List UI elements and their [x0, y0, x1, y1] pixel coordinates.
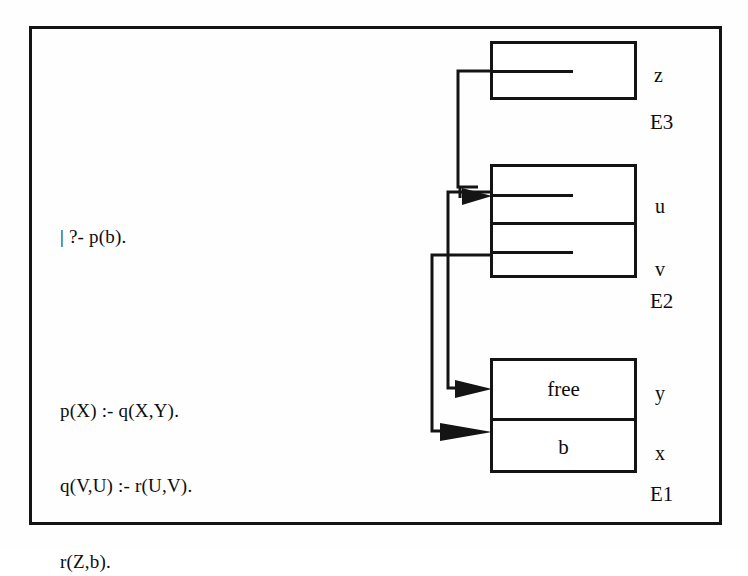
env-cell-value: free	[547, 379, 580, 400]
program-clause-2: q(V,U) :- r(U,V).	[60, 473, 192, 498]
cell-pointer-stub	[491, 70, 573, 73]
program-clause-3: r(Z,b).	[60, 549, 192, 574]
environment-label-e3: E3	[650, 112, 673, 133]
env-cell-e3-z	[493, 44, 634, 97]
env-cell-e2-u	[493, 167, 634, 222]
environment-label-e1: E1	[650, 484, 673, 505]
environment-label-e2: E2	[650, 291, 673, 312]
prolog-query-text: | ?- p(b).	[60, 174, 126, 299]
slot-label-u: u	[655, 196, 665, 216]
program-clause-1: p(X) :- q(X,Y).	[60, 398, 192, 423]
prolog-program-text: p(X) :- q(X,Y). q(V,U) :- r(U,V). r(Z,b)…	[60, 348, 192, 576]
slot-label-v: v	[655, 259, 665, 279]
environment-frame-e1: free b	[490, 358, 637, 473]
env-cell-e1-y: free	[493, 361, 634, 418]
env-cell-value: b	[558, 437, 569, 458]
cell-pointer-stub	[491, 251, 573, 254]
environment-frame-e2	[490, 164, 637, 278]
cell-pointer-stub	[491, 194, 573, 197]
query-line: | ?- p(b).	[60, 224, 126, 249]
env-cell-e2-v	[493, 222, 634, 278]
slot-label-y: y	[655, 383, 665, 403]
slot-label-z: z	[654, 65, 663, 85]
slot-label-x: x	[655, 443, 665, 463]
environment-frame-e3	[490, 41, 637, 100]
env-cell-e1-x: b	[493, 418, 634, 473]
